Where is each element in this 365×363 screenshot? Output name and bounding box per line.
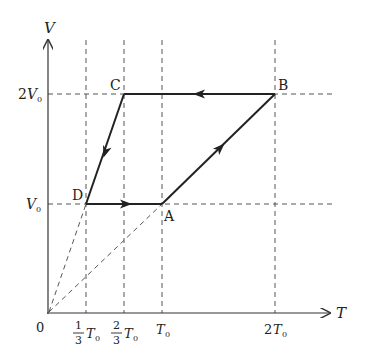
point-label-d: D [72, 187, 83, 203]
svg-text:3: 3 [113, 334, 120, 347]
x-tick-two-thirds-t0: 2 3 T 0 [111, 319, 138, 347]
x-tick-2t0: 2 T 0 [264, 322, 287, 339]
origin-label: 0 [36, 320, 44, 335]
svg-text:1: 1 [75, 319, 82, 332]
point-label-c: C [110, 77, 121, 93]
x-tick-third-t0: 1 3 T 0 [73, 319, 100, 347]
cycle-path [86, 94, 275, 204]
t-axis-label: T [336, 304, 347, 322]
svg-text:3: 3 [75, 334, 82, 347]
guide-origin-to-d [49, 204, 86, 312]
guide-origin-to-a [49, 204, 162, 312]
y-tick-2v0: 2 V 0 [18, 86, 42, 104]
point-label-a: A [163, 208, 175, 224]
y-tick-v0: V 0 [26, 196, 41, 214]
svg-text:0: 0 [36, 205, 41, 214]
svg-text:2: 2 [113, 319, 120, 332]
x-tick-t0: T 0 [156, 322, 170, 339]
vt-diagram: A B C D V T 0 2 V 0 V 0 1 3 T 0 2 3 T 0 … [0, 0, 365, 363]
point-label-b: B [278, 77, 288, 93]
v-axis-label: V [44, 19, 57, 37]
svg-text:0: 0 [95, 334, 100, 343]
svg-text:2: 2 [18, 86, 27, 102]
svg-text:0: 0 [165, 330, 170, 339]
svg-text:0: 0 [133, 334, 138, 343]
svg-text:0: 0 [37, 95, 42, 104]
svg-text:2: 2 [264, 322, 272, 337]
svg-text:0: 0 [282, 330, 287, 339]
